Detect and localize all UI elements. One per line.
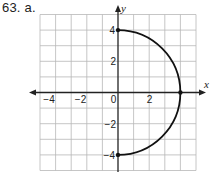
coordinate-plane: y x −4 −2 0 2 4 2 −2 −4: [0, 0, 215, 172]
tick-y-neg4: −4: [104, 150, 116, 161]
point-0-4: [116, 28, 120, 32]
point-4-0: [178, 90, 182, 94]
tick-x-neg4: −4: [43, 94, 55, 105]
tick-y-4: 4: [109, 25, 115, 36]
tick-y-2: 2: [110, 56, 116, 67]
y-axis-label: y: [120, 2, 126, 14]
x-axis-right-arrow-icon: [199, 90, 206, 96]
x-axis-left-arrow-icon: [29, 90, 36, 96]
tick-x-neg2: −2: [75, 94, 87, 105]
tick-origin: 0: [111, 94, 117, 105]
x-axis-label: x: [203, 78, 209, 90]
tick-y-neg2: −2: [105, 119, 117, 130]
point-0-neg4: [116, 153, 120, 157]
tick-x-2: 2: [147, 94, 153, 105]
